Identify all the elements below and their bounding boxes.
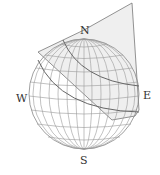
label-west: W xyxy=(16,93,27,104)
label-north: N xyxy=(80,25,90,36)
label-east: E xyxy=(143,90,151,101)
label-south: S xyxy=(80,155,88,166)
plane xyxy=(38,3,139,120)
